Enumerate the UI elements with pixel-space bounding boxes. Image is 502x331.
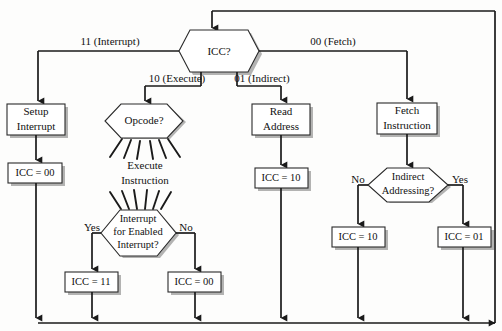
decision-interrupt-enabled-line1: Interrupt	[120, 213, 157, 224]
edge-label-no-indirect: No	[351, 173, 365, 185]
state-icc-00-interrupt[interactable]: ICC = 00	[8, 163, 65, 186]
decision-interrupt-enabled-line2: for Enabled	[113, 226, 163, 237]
process-execute-instruction-line1: Execute	[127, 159, 163, 171]
process-execute-instruction: Execute Instruction	[121, 159, 169, 186]
edge-label-yes-execute: Yes	[84, 221, 100, 233]
state-icc-00-execute[interactable]: ICC = 00	[168, 272, 224, 295]
state-icc-01-fetch[interactable]: ICC = 01	[438, 227, 494, 250]
process-execute-instruction-line2: Instruction	[121, 174, 169, 186]
process-fetch-instruction-line2: Instruction	[383, 119, 431, 131]
process-read-address[interactable]: Read Address	[252, 104, 313, 138]
state-icc-10-fetch[interactable]: ICC = 10	[332, 227, 388, 250]
state-icc-11[interactable]: ICC = 11	[65, 272, 121, 295]
process-read-address-line2: Address	[263, 120, 299, 132]
decision-interrupt-enabled-line3: Interrupt?	[117, 239, 159, 250]
edge-indirect-yes-to-icc01	[448, 185, 463, 224]
process-setup-interrupt-line1: Setup	[23, 105, 49, 117]
decision-interrupt-enabled[interactable]: Interrupt for Enabled Interrupt?	[101, 210, 179, 258]
process-fetch-instruction[interactable]: Fetch Instruction	[377, 103, 440, 137]
flowchart-svg: ICC? 11 (Interrupt) 00 (Fetch) 10 (Execu…	[0, 0, 502, 331]
edge-label-no-execute: No	[179, 221, 193, 233]
edge-label-yes-indirect: Yes	[452, 173, 468, 185]
edge-indirect-no-to-icc10	[358, 185, 368, 224]
decision-indirect-addressing[interactable]: Indirect Addressing?	[368, 168, 451, 203]
state-icc-10-fetch-label: ICC = 10	[338, 231, 377, 242]
state-icc-00-interrupt-label: ICC = 00	[15, 167, 54, 178]
decision-icc-label: ICC?	[207, 45, 230, 57]
decision-opcode-label: Opcode?	[124, 114, 163, 126]
edge-interrupt-no-to-icc00	[176, 233, 195, 269]
state-icc-10-indirect[interactable]: ICC = 10	[255, 168, 311, 191]
process-setup-interrupt-line2: Interrupt	[17, 120, 55, 132]
flowchart-canvas: ICC? 11 (Interrupt) 00 (Fetch) 10 (Execu…	[0, 0, 502, 331]
edge-label-execute: 10 (Execute)	[149, 72, 206, 85]
process-read-address-line1: Read	[270, 105, 293, 117]
edge-label-indirect: 01 (Indirect)	[234, 72, 290, 85]
decision-icc[interactable]: ICC?	[179, 30, 262, 75]
process-fetch-instruction-line1: Fetch	[395, 104, 420, 116]
state-icc-11-label: ICC = 11	[72, 276, 111, 287]
edge-interrupt-yes-to-icc11	[92, 233, 101, 269]
state-icc-00-execute-label: ICC = 00	[174, 276, 213, 287]
state-icc-10-indirect-label: ICC = 10	[261, 172, 300, 183]
opcode-burst-icon	[110, 139, 180, 159]
edge-label-interrupt: 11 (Interrupt)	[80, 35, 139, 48]
state-icc-01-fetch-label: ICC = 01	[444, 231, 483, 242]
decision-indirect-addressing-line2: Addressing?	[382, 185, 435, 196]
interrupt-burst-icon	[110, 190, 171, 209]
decision-indirect-addressing-line1: Indirect	[392, 171, 425, 182]
process-setup-interrupt[interactable]: Setup Interrupt	[7, 104, 68, 138]
decision-opcode[interactable]: Opcode?	[105, 104, 186, 139]
edge-label-fetch: 00 (Fetch)	[310, 35, 356, 48]
